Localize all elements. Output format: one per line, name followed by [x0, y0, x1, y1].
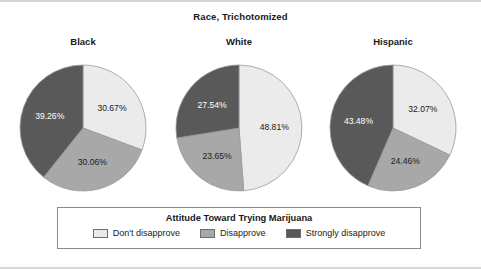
pie-chart-figure: Race, Trichotomized Black White Hispanic… — [0, 0, 481, 269]
pie-slice — [177, 128, 244, 191]
pie-slice — [176, 65, 239, 138]
panel-title-hispanic: Hispanic — [318, 36, 468, 47]
legend-swatch-icon — [93, 229, 108, 238]
legend-swatch-icon — [200, 229, 215, 238]
legend-swatch-icon — [286, 229, 301, 238]
pie-black — [19, 64, 147, 192]
legend-item[interactable]: Don't disapprove — [93, 228, 180, 238]
panel-title-black: Black — [8, 36, 158, 47]
legend-item[interactable]: Disapprove — [200, 228, 266, 238]
panel-title-white: White — [164, 36, 314, 47]
pie-panel-black: 30.67%30.06%39.26% — [8, 59, 158, 197]
pie-panel-white: 48.81%23.65%27.54% — [164, 59, 314, 197]
pie-hispanic — [329, 64, 457, 192]
pie-white — [175, 64, 303, 192]
legend: Attitude Toward Trying Marijuana Don't d… — [57, 207, 421, 249]
legend-items: Don't disapproveDisapproveStrongly disap… — [58, 228, 420, 238]
legend-item-label: Disapprove — [220, 228, 266, 238]
pie-panel-hispanic: 32.07%24.46%43.48% — [318, 59, 468, 197]
pie-svg — [19, 64, 147, 192]
legend-item-label: Don't disapprove — [113, 228, 180, 238]
legend-title: Attitude Toward Trying Marijuana — [58, 213, 420, 223]
pie-svg — [175, 64, 303, 192]
pie-slice — [239, 65, 302, 191]
pie-svg — [329, 64, 457, 192]
legend-item-label: Strongly disapprove — [306, 228, 386, 238]
legend-item[interactable]: Strongly disapprove — [286, 228, 386, 238]
page-title: Race, Trichotomized — [0, 11, 481, 22]
